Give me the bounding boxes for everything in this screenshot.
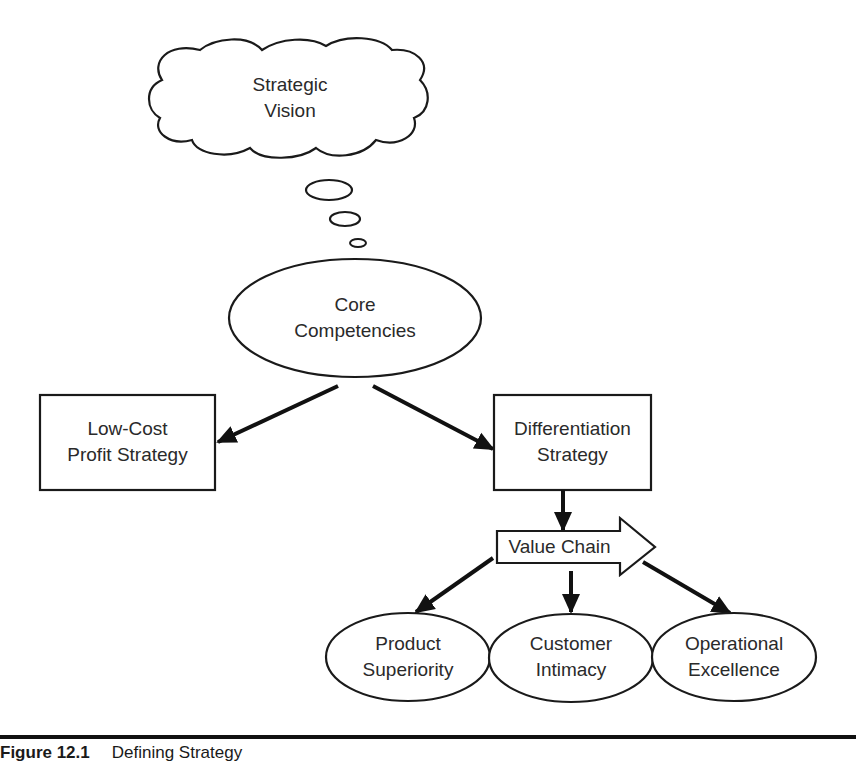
figure-title: Defining Strategy	[112, 743, 242, 762]
caption-rule	[0, 735, 856, 739]
differentiation-label: Differentiation Strategy	[494, 414, 651, 470]
customer-intimacy-line-2: Intimacy	[536, 657, 607, 683]
product-superiority-label: Product Superiority	[328, 629, 488, 685]
value-chain-label: Value Chain	[497, 533, 622, 561]
arrow-to-operational-excellence	[643, 562, 730, 613]
core-competencies-label: Core Competencies	[255, 290, 455, 346]
core-competencies-line-2: Competencies	[294, 318, 415, 344]
strategic-vision-line-2: Vision	[264, 98, 315, 124]
figure-number: Figure 12.1	[0, 743, 90, 762]
operational-excellence-label: Operational Excellence	[654, 629, 814, 685]
arrow-to-differentiation	[373, 386, 493, 449]
arrow-to-product-superiority	[416, 558, 493, 612]
differentiation-line-1: Differentiation	[514, 416, 631, 442]
low-cost-line-1: Low-Cost	[87, 416, 167, 442]
customer-intimacy-label: Customer Intimacy	[491, 629, 651, 685]
low-cost-label: Low-Cost Profit Strategy	[40, 414, 215, 470]
product-superiority-line-1: Product	[375, 631, 440, 657]
thought-bubble-small	[350, 239, 366, 247]
strategic-vision-line-1: Strategic	[253, 72, 328, 98]
product-superiority-line-2: Superiority	[363, 657, 454, 683]
customer-intimacy-line-1: Customer	[530, 631, 612, 657]
thought-bubble-medium	[330, 212, 360, 226]
core-competencies-line-1: Core	[334, 292, 375, 318]
operational-excellence-line-2: Excellence	[688, 657, 780, 683]
differentiation-line-2: Strategy	[537, 442, 608, 468]
value-chain-line-1: Value Chain	[508, 534, 610, 560]
thought-bubble-large	[306, 180, 352, 200]
low-cost-line-2: Profit Strategy	[67, 442, 187, 468]
strategic-vision-label: Strategic Vision	[190, 70, 390, 126]
arrow-to-low-cost	[218, 386, 338, 442]
operational-excellence-line-1: Operational	[685, 631, 783, 657]
figure-caption: Figure 12.1Defining Strategy	[0, 743, 242, 763]
